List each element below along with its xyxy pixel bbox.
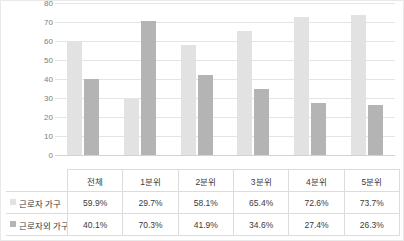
table-cell-value: 41.9% bbox=[178, 214, 233, 236]
plot-area: 80706050403020100 bbox=[1, 3, 404, 168]
table-cell-value: 29.7% bbox=[123, 192, 178, 214]
table-column-header: 4분위 bbox=[289, 170, 344, 192]
y-axis-tick-label: 30 bbox=[44, 94, 53, 103]
y-axis-tick-label: 40 bbox=[44, 75, 53, 84]
bar bbox=[294, 17, 309, 155]
legend-label: 근로자외 가구 bbox=[19, 221, 68, 231]
table-row-header: 근로자외 가구 bbox=[6, 214, 68, 236]
table-column-header: 전체 bbox=[68, 170, 123, 192]
table-column-header: 2분위 bbox=[178, 170, 233, 192]
table-column-header: 3분위 bbox=[233, 170, 288, 192]
bar bbox=[181, 45, 196, 155]
legend-swatch-icon bbox=[10, 199, 16, 205]
table-corner-cell bbox=[6, 170, 68, 192]
bar bbox=[124, 99, 139, 155]
table-body: 근로자 가구59.9%29.7%58.1%65.4%72.6%73.7%근로자외… bbox=[6, 192, 400, 236]
bar bbox=[67, 41, 82, 155]
y-axis-tick-label: 70 bbox=[44, 18, 53, 27]
table-cell-value: 72.6% bbox=[289, 192, 344, 214]
data-table: 전체1분위2분위3분위4분위5분위 근로자 가구59.9%29.7%58.1%6… bbox=[6, 169, 400, 236]
chart-figure: 80706050403020100 전체1분위2분위3분위4분위5분위 근로자 … bbox=[0, 0, 404, 241]
bar bbox=[84, 79, 99, 155]
bar-group bbox=[112, 3, 169, 155]
bar-group bbox=[55, 3, 112, 155]
axis-baseline bbox=[55, 155, 395, 156]
table-row: 근로자 가구59.9%29.7%58.1%65.4%72.6%73.7% bbox=[6, 192, 400, 214]
legend-swatch-icon bbox=[10, 221, 16, 227]
table-cell-value: 59.9% bbox=[68, 192, 123, 214]
legend-label: 근로자 가구 bbox=[19, 199, 61, 209]
bar bbox=[141, 21, 156, 155]
y-axis-tick-label: 20 bbox=[44, 113, 53, 122]
bar-group bbox=[168, 3, 225, 155]
y-axis-tick-label: 50 bbox=[44, 56, 53, 65]
bar bbox=[368, 105, 383, 155]
table-cell-value: 40.1% bbox=[68, 214, 123, 236]
bar bbox=[254, 89, 269, 155]
bar-groups bbox=[55, 3, 395, 155]
table-header: 전체1분위2분위3분위4분위5분위 bbox=[6, 170, 400, 192]
bar bbox=[351, 15, 366, 155]
bar-group bbox=[225, 3, 282, 155]
table-column-header: 5분위 bbox=[344, 170, 399, 192]
table-cell-value: 34.6% bbox=[233, 214, 288, 236]
table-row-header: 근로자 가구 bbox=[6, 192, 68, 214]
table-column-header: 1분위 bbox=[123, 170, 178, 192]
bar-group bbox=[338, 3, 395, 155]
y-axis-tick-label: 0 bbox=[49, 151, 53, 160]
bar bbox=[311, 103, 326, 155]
bar bbox=[237, 31, 252, 155]
table-cell-value: 73.7% bbox=[344, 192, 399, 214]
table-cell-value: 26.3% bbox=[344, 214, 399, 236]
table-cell-value: 58.1% bbox=[178, 192, 233, 214]
bar-group bbox=[282, 3, 339, 155]
bar bbox=[198, 75, 213, 155]
y-axis: 80706050403020100 bbox=[25, 3, 53, 168]
y-axis-tick-label: 80 bbox=[44, 0, 53, 8]
y-axis-tick-label: 60 bbox=[44, 37, 53, 46]
table-cell-value: 27.4% bbox=[289, 214, 344, 236]
table-cell-value: 70.3% bbox=[123, 214, 178, 236]
table-cell-value: 65.4% bbox=[233, 192, 288, 214]
table-header-row: 전체1분위2분위3분위4분위5분위 bbox=[6, 170, 400, 192]
y-axis-tick-label: 10 bbox=[44, 132, 53, 141]
table-row: 근로자외 가구40.1%70.3%41.9%34.6%27.4%26.3% bbox=[6, 214, 400, 236]
